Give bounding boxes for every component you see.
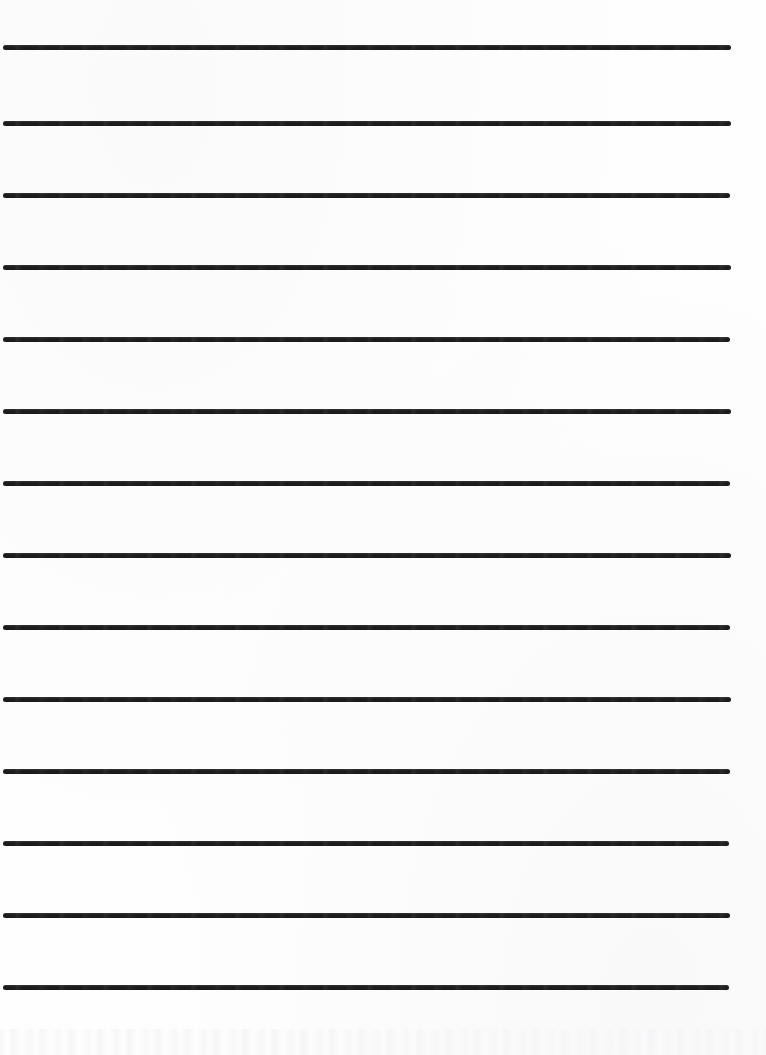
- rule-line: [3, 697, 731, 702]
- rule-line: [3, 409, 731, 414]
- rule-line: [3, 985, 729, 990]
- scan-noise-artifact: [0, 1029, 766, 1055]
- rule-line: [3, 913, 730, 918]
- rule-line: [3, 769, 730, 774]
- rule-line: [3, 193, 730, 198]
- rule-line: [3, 481, 730, 486]
- rule-line: [3, 121, 731, 126]
- ruled-writing-sheet: [0, 0, 766, 1055]
- rule-line: [3, 841, 729, 846]
- rule-line: [3, 45, 731, 50]
- rule-line: [3, 337, 730, 342]
- rule-line: [3, 265, 731, 270]
- rule-line: [3, 553, 731, 558]
- rule-line: [3, 625, 730, 630]
- paper-texture: [0, 0, 766, 1055]
